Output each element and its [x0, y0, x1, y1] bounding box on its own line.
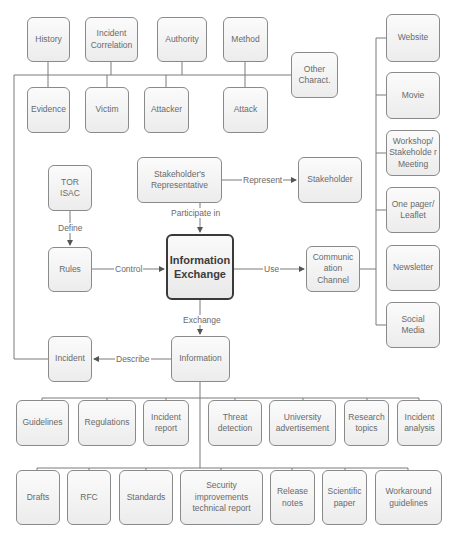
node-label: Rules [59, 264, 81, 276]
node-label: Incident analysis [400, 412, 439, 435]
node-incident-correlation: Incident Correlation [85, 17, 138, 62]
node-stakeholder: Stakeholder [298, 157, 362, 203]
edge-label-participate-in: Participate in [170, 208, 221, 218]
channel-social-media: Social Media [386, 302, 440, 348]
edge-label-define: Define [57, 223, 84, 233]
node-label: University advertisement [272, 412, 333, 435]
node-label: Evidence [31, 104, 66, 116]
channel-movie: Movie [386, 72, 440, 119]
node-label: Social Media [389, 314, 437, 337]
node-label: RFC [80, 492, 97, 504]
node-label: Attack [234, 104, 258, 116]
node-label: Incident report [146, 412, 186, 435]
info-type-scientific-paper: Scientific paper [322, 470, 367, 525]
info-type-standards: Standards [119, 470, 173, 525]
node-label: History [35, 34, 61, 46]
node-tor-isac: TOR ISAC [48, 165, 92, 211]
node-label: Other Charact. [294, 64, 335, 87]
info-type-rfc: RFC [67, 470, 111, 525]
edge-label-describe: Describe [115, 354, 151, 364]
node-other-charact: Other Charact. [291, 52, 338, 98]
edge-label-control: Control [114, 264, 143, 274]
edge-label-use: Use [263, 264, 280, 274]
node-method: Method [223, 17, 268, 62]
info-type-threat-detection: Threat detection [208, 400, 262, 446]
node-communication-channel: Communic ation Channel [306, 246, 360, 292]
node-label: Security improvements technical report [183, 480, 260, 515]
node-label: Attacker [151, 104, 182, 116]
central-label: Information Exchange [170, 253, 231, 281]
info-type-release-notes: Release notes [270, 470, 315, 525]
node-label: Regulations [85, 417, 130, 429]
node-victim: Victim [85, 87, 129, 133]
node-label: Newsletter [393, 262, 433, 274]
channel-one-pager: One pager/ Leaflet [386, 187, 440, 233]
info-type-drafts: Drafts [16, 470, 60, 525]
info-type-workaround-guidelines: Workaround guidelines [375, 470, 442, 525]
node-label: Information [179, 353, 222, 365]
node-history: History [27, 17, 70, 62]
node-label: Victim [96, 104, 119, 116]
info-type-incident-analysis: Incident analysis [397, 400, 442, 446]
node-label: Website [398, 32, 429, 44]
node-label: Incident [55, 353, 85, 365]
node-attacker: Attacker [144, 87, 189, 133]
node-label: Guidelines [22, 417, 62, 429]
node-information-exchange: Information Exchange [166, 234, 234, 300]
channel-newsletter: Newsletter [386, 245, 440, 291]
node-label: Release notes [273, 486, 312, 509]
node-evidence: Evidence [27, 87, 70, 133]
node-label: Workshop/ Stakeholde r Meeting [389, 136, 437, 171]
edge-label-exchange: Exchange [182, 315, 222, 325]
info-type-university-advertisement: University advertisement [269, 400, 336, 446]
node-incident: Incident [48, 336, 92, 382]
node-label: Drafts [27, 492, 50, 504]
node-label: Stakeholder's Representative [140, 169, 219, 192]
info-type-security-improvements-report: Security improvements technical report [180, 470, 263, 525]
node-label: Workaround guidelines [378, 486, 439, 509]
edge-label-represent: Represent [242, 175, 283, 185]
node-label: Incident Correlation [88, 28, 135, 51]
node-label: Stakeholder [307, 174, 352, 186]
node-attack: Attack [223, 87, 268, 133]
node-label: Threat detection [211, 412, 259, 435]
information-exchange-diagram: History Incident Correlation Authority M… [0, 0, 457, 539]
node-stakeholders-representative: Stakeholder's Representative [137, 157, 222, 203]
node-label: Method [231, 34, 259, 46]
info-type-research-topics: Research topics [344, 400, 389, 446]
node-label: Movie [402, 90, 425, 102]
node-authority: Authority [157, 17, 207, 62]
node-rules: Rules [48, 247, 92, 292]
channel-workshop: Workshop/ Stakeholde r Meeting [386, 130, 440, 176]
info-type-incident-report: Incident report [143, 400, 189, 446]
info-type-regulations: Regulations [78, 400, 136, 446]
node-label: Communic ation Channel [309, 252, 357, 287]
node-label: Research topics [347, 412, 386, 435]
info-type-guidelines: Guidelines [16, 400, 69, 446]
node-label: Standards [127, 492, 166, 504]
node-label: TOR ISAC [51, 177, 89, 200]
channel-website: Website [386, 14, 440, 62]
node-label: Scientific paper [325, 486, 364, 509]
node-label: One pager/ Leaflet [389, 199, 437, 222]
node-label: Authority [165, 34, 199, 46]
node-information: Information [171, 336, 230, 382]
